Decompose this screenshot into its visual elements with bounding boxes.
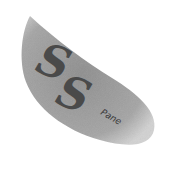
logo: S S Pane (0, 0, 171, 172)
